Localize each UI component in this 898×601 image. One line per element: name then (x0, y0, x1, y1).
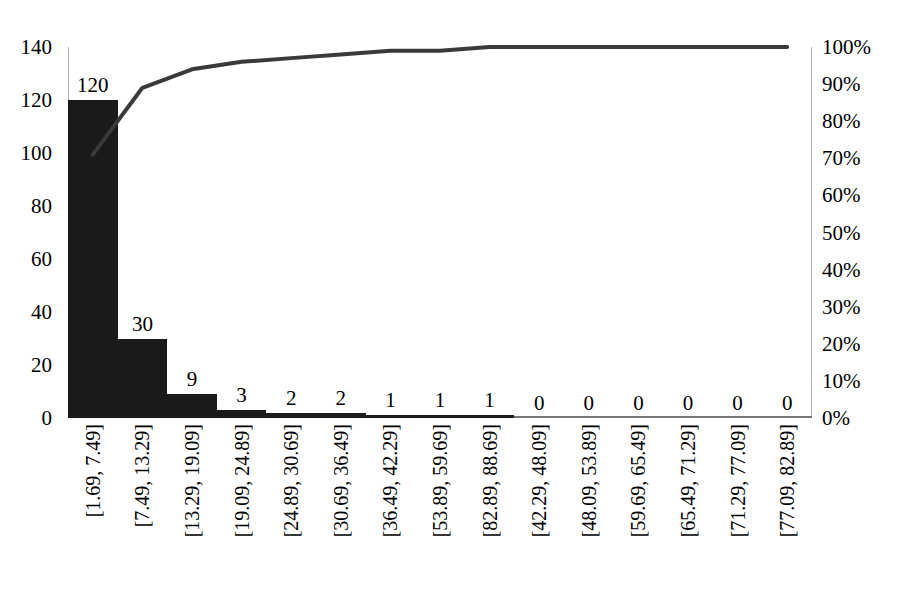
y-axis-right-tick: 60% (822, 185, 861, 206)
bar-slot: 2 (316, 47, 366, 418)
bar-value-label: 0 (732, 393, 743, 414)
y-axis-left-tick: 100 (21, 143, 53, 164)
x-axis-label-slot: [82.89, 88.69] (465, 424, 515, 601)
bar-value-label: 30 (132, 314, 153, 335)
x-axis-label-slot: [71.29, 77.09] (713, 424, 763, 601)
x-axis-category-label: [42.29, 48.09] (529, 424, 549, 537)
bar (266, 413, 316, 418)
bar (465, 415, 515, 418)
y-axis-right-tick: 70% (822, 148, 861, 169)
y-axis-left-tick: 140 (21, 37, 53, 58)
bar-value-label: 1 (435, 390, 446, 411)
x-axis-label-slot: [1.69, 7.49] (68, 424, 118, 601)
bar-slot: 0 (564, 47, 614, 418)
x-axis-label-slot: [7.49, 13.29] (118, 424, 168, 601)
bar-slot: 1 (415, 47, 465, 418)
plot-area: 120309322111000000 (68, 47, 812, 418)
x-axis-category-label: [7.49, 13.29] (132, 424, 152, 527)
bar-value-label: 0 (633, 393, 644, 414)
x-axis-label-slot: [36.49, 42.29] (366, 424, 416, 601)
x-axis-category-label: [77.09, 82.89] (777, 424, 797, 537)
bar (316, 413, 366, 418)
bar-value-label: 1 (484, 390, 495, 411)
bar-value-label: 3 (236, 385, 247, 406)
bar-slot: 2 (266, 47, 316, 418)
x-axis-label-slot: [13.29, 19.09] (167, 424, 217, 601)
x-axis-category-labels: [1.69, 7.49][7.49, 13.29][13.29, 19.09][… (68, 424, 812, 601)
bar-value-label: 0 (683, 393, 694, 414)
bar-slot: 3 (217, 47, 267, 418)
y-axis-left-tick: 120 (21, 90, 53, 111)
x-axis-label-slot: [48.09, 53.89] (564, 424, 614, 601)
bar-slot: 0 (762, 47, 812, 418)
bar (167, 394, 217, 418)
bar-slot: 1 (465, 47, 515, 418)
y-axis-right-tick: 10% (822, 370, 861, 391)
y-axis-left-tick: 40 (31, 302, 52, 323)
y-axis-left-tick: 20 (31, 355, 52, 376)
bar-value-label: 2 (286, 388, 297, 409)
bar-slot: 120 (68, 47, 118, 418)
bar (217, 410, 267, 418)
x-axis-category-label: [53.89, 59.69] (430, 424, 450, 537)
x-axis-label-slot: [30.69, 36.49] (316, 424, 366, 601)
bar-slot: 30 (118, 47, 168, 418)
y-axis-right-tick: 40% (822, 259, 861, 280)
bar-value-label: 0 (584, 393, 595, 414)
bar-slot: 0 (663, 47, 713, 418)
x-axis-category-label: [30.69, 36.49] (331, 424, 351, 537)
y-axis-right-tick: 30% (822, 296, 861, 317)
y-axis-left-labels: 020406080100120140 (4, 47, 60, 418)
bar-slot: 9 (167, 47, 217, 418)
y-axis-right-tick: 80% (822, 111, 861, 132)
y-axis-left-tick: 60 (31, 249, 52, 270)
x-axis-label-slot: [65.49, 71.29] (663, 424, 713, 601)
bar-value-label: 2 (336, 388, 347, 409)
bar-value-label: 0 (782, 393, 793, 414)
pareto-chart: 020406080100120140 0%10%20%30%40%50%60%7… (0, 0, 898, 601)
x-axis-label-slot: [24.89, 30.69] (266, 424, 316, 601)
x-axis-label-slot: [53.89, 59.69] (415, 424, 465, 601)
y-axis-right-tick: 20% (822, 333, 861, 354)
x-axis-category-label: [71.29, 77.09] (728, 424, 748, 537)
x-axis-category-label: [65.49, 71.29] (678, 424, 698, 537)
y-axis-left-tick: 80 (31, 196, 52, 217)
bar (366, 415, 416, 418)
x-axis-label-slot: [19.09, 24.89] (217, 424, 267, 601)
bar-value-label: 9 (187, 369, 198, 390)
bar-slot: 0 (713, 47, 763, 418)
x-axis-label-slot: [77.09, 82.89] (762, 424, 812, 601)
x-axis-category-label: [13.29, 19.09] (182, 424, 202, 537)
x-axis-category-label: [82.89, 88.69] (480, 424, 500, 537)
bar (415, 415, 465, 418)
bar-value-label: 0 (534, 393, 545, 414)
x-axis-category-label: [36.49, 42.29] (380, 424, 400, 537)
y-axis-right-tick: 100% (822, 37, 871, 58)
bar-slot: 0 (514, 47, 564, 418)
bar (68, 100, 118, 418)
y-axis-right-tick: 50% (822, 222, 861, 243)
x-axis-category-label: [48.09, 53.89] (579, 424, 599, 537)
bars-layer: 120309322111000000 (68, 47, 812, 418)
bar-slot: 1 (366, 47, 416, 418)
x-axis-category-label: [19.09, 24.89] (232, 424, 252, 537)
bar-value-label: 1 (385, 390, 396, 411)
y-axis-left-tick: 0 (42, 408, 53, 429)
y-axis-right-tick: 0% (822, 408, 850, 429)
x-axis-category-label: [24.89, 30.69] (281, 424, 301, 537)
x-axis-label-slot: [42.29, 48.09] (514, 424, 564, 601)
bar-value-label: 120 (77, 75, 109, 96)
x-axis-category-label: [1.69, 7.49] (83, 424, 103, 517)
y-axis-right-labels: 0%10%20%30%40%50%60%70%80%90%100% (822, 47, 892, 418)
bar-slot: 0 (614, 47, 664, 418)
x-axis-label-slot: [59.69, 65.49] (614, 424, 664, 601)
y-axis-right-tick: 90% (822, 74, 861, 95)
x-axis-category-label: [59.69, 65.49] (628, 424, 648, 537)
bar (118, 339, 168, 419)
